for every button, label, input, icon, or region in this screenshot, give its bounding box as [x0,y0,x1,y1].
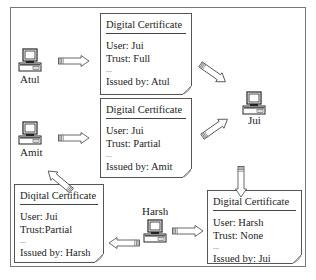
certificate-issuer: Issued by: Atul [106,75,186,88]
arrow-right-icon [58,132,90,144]
node-label-harsh: Harsh [142,205,168,217]
certificate-trust: Trust: Partial [106,137,186,150]
certificate-user: User: Jui [106,39,186,52]
certificate-ellipsis: ... [106,65,186,75]
page-fold-icon [94,253,104,263]
certificate-issuer: Issued by: Amit [106,160,186,173]
certificate-title: Digital Certificate [106,16,186,34]
certificate-title: Digital Certificate [213,193,296,211]
page-fold-icon [292,254,302,264]
node-label-atul: Atul [20,73,40,85]
computer-icon-jui [241,91,267,115]
certificate-user: User: Jui [106,124,186,137]
arrow-left-icon [108,237,140,249]
certificate-user: User: Harsh [213,216,296,229]
certificate-ellipsis: ... [213,242,296,252]
certificate-jui-issued: Digital Certificate User: Harsh Trust: N… [207,190,302,264]
certificate-trust: Trust:Partial [20,223,98,236]
certificate-user: User: Jui [20,210,98,223]
arrow-right-icon [172,225,204,237]
certificate-title: Diqital Certificate [20,187,98,205]
certificate-issuer: Issued by: Harsh [20,246,98,259]
certificate-ellipsis: ... [20,236,98,246]
certificate-atul: Digital Certificate User: Jui Trust: Ful… [100,13,192,95]
computer-icon-amit [17,121,43,145]
certificate-issuer: Issued by: Jui [213,252,296,265]
arrow-right-icon [58,55,90,67]
certificate-amit: Digital Certificate User: Jui Trust: Par… [100,98,192,178]
certificate-ellipsis: ... [106,150,186,160]
certificate-trust: Trust: Full [106,52,186,65]
computer-icon-atul [17,48,43,72]
page-fold-icon [182,85,192,95]
arrow-down-icon [235,166,247,198]
page-fold-icon [182,168,192,178]
node-label-jui: Jui [248,114,261,126]
node-label-amit: Amit [20,146,43,158]
certificate-trust: Trust: None [213,229,296,242]
computer-icon-harsh [142,219,168,243]
certificate-title: Digital Certificate [106,101,186,119]
certificate-harsh-issued: Diqital Certificate User: Jui Trust:Part… [14,184,104,263]
